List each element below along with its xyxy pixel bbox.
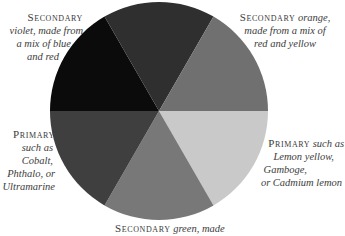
label-kind: Primary [268, 137, 310, 149]
label-line: Gamboge, [245, 163, 344, 176]
label-primary-yellow: Primary such as Lemon yellow, Gamboge, o… [245, 137, 344, 189]
label-kind: Primary [2, 128, 55, 141]
label-line: a mix of blue [2, 37, 83, 50]
label-line: Ultramarine [2, 180, 55, 193]
label-line: green, made [171, 223, 225, 234]
label-line: such as [2, 141, 55, 154]
label-primary-blue: Primary such as Cobalt, Phthalo, or Ultr… [2, 128, 55, 193]
label-line: orange, [295, 12, 330, 23]
label-secondary-violet: Secondary violet, made from a mix of blu… [2, 11, 83, 63]
label-secondary-green: Secondary green, made [115, 222, 225, 235]
label-line: violet, made from [2, 24, 83, 37]
label-kind: Secondary [115, 222, 171, 234]
label-line: or Cadmium lemon [245, 176, 344, 189]
label-line: Lemon yellow, [245, 150, 344, 163]
label-line: Cobalt, [2, 154, 55, 167]
label-line: and red [2, 50, 83, 63]
label-line: such as [310, 138, 344, 149]
label-kind: Secondary [2, 11, 83, 24]
label-line: red and yellow [226, 37, 344, 50]
label-secondary-orange: Secondary orange, made from a mix of red… [226, 11, 344, 50]
label-line: made from a mix of [226, 24, 344, 37]
label-line: Phthalo, or [2, 167, 55, 180]
label-kind: Secondary [240, 11, 296, 23]
